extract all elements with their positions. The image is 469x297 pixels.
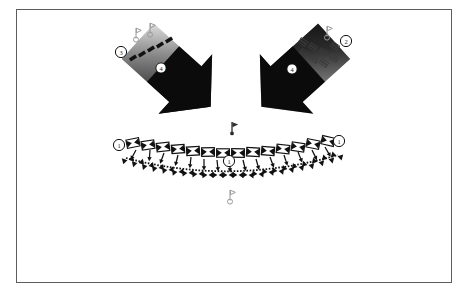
callout-right-band-end-label: 1 xyxy=(333,138,345,145)
figure-root: 1 1 1 3 2 4 4 xyxy=(0,0,469,297)
band-upper-markers xyxy=(126,135,335,157)
callout-right-small-marks-label: 2 xyxy=(340,38,352,45)
arrow-right-label: 4 xyxy=(286,66,298,73)
arrow-right xyxy=(235,11,361,136)
callout-left-small-marks-label: 3 xyxy=(115,49,127,56)
arrow-left xyxy=(111,11,237,136)
flag-lower-center-icon xyxy=(228,190,236,204)
arrow-left-label: 4 xyxy=(155,65,167,72)
figure-drawing xyxy=(0,0,469,297)
callout-left-band-end-label: 1 xyxy=(113,142,125,149)
callout-center-band-label: 1 xyxy=(223,158,235,165)
flag-upper-center-icon xyxy=(230,122,238,135)
figure-caption xyxy=(19,286,449,297)
